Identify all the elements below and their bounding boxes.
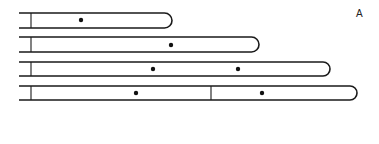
rod-outline <box>19 13 172 28</box>
marker-dot <box>151 67 155 71</box>
marker-dot <box>79 18 83 22</box>
rod-outline <box>19 86 357 100</box>
rod-outline <box>19 62 330 76</box>
marker-dot <box>169 43 173 47</box>
marker-dot <box>260 91 264 95</box>
marker-dot <box>134 91 138 95</box>
rods-group <box>19 13 357 100</box>
rod-cell <box>19 13 172 28</box>
rod-cell-diagram <box>0 0 379 144</box>
marker-dot <box>236 67 240 71</box>
rod-cell <box>19 86 357 100</box>
rod-cell <box>19 62 330 76</box>
rod-outline <box>19 37 259 52</box>
rod-cell <box>19 37 259 52</box>
panel-label: A <box>356 8 363 19</box>
